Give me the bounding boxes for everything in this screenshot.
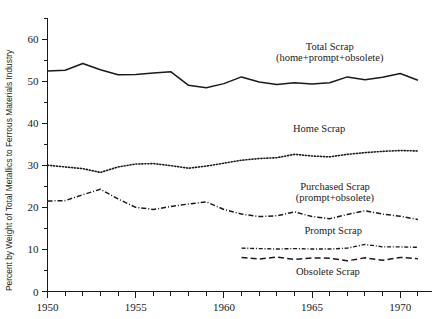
scrap-percentage-line-chart: 010203040506019501955196019651970Percent…	[0, 0, 441, 319]
series-annotation-home-scrap: Home Scrap	[293, 123, 345, 134]
series-line-home-scrap	[48, 151, 418, 173]
series-annotation-prompt-scrap: Prompt Scrap	[305, 225, 362, 236]
y-axis-title: Percent by Weight of Total Metallics to …	[4, 49, 14, 291]
y-tick-label: 20	[28, 201, 40, 213]
series-annotation-obsolete-scrap: Obsolete Scrap	[296, 266, 360, 277]
x-tick-label: 1970	[389, 301, 412, 313]
y-tick-label: 60	[28, 33, 40, 45]
series-annotation-purchased-scrap: Purchased Scrap	[300, 181, 370, 192]
x-tick-label: 1950	[37, 301, 60, 313]
x-tick-label: 1955	[125, 301, 148, 313]
series-line-total-scrap	[48, 63, 418, 87]
series-annotation-home-prompt-obsolete: (home+prompt+obsolete)	[276, 52, 384, 64]
x-tick-label: 1960	[213, 301, 236, 313]
y-tick-label: 0	[33, 286, 39, 298]
chart-container: 010203040506019501955196019651970Percent…	[0, 0, 441, 319]
series-annotation-total-scrap: Total Scrap	[306, 41, 354, 52]
y-tick-label: 40	[28, 117, 40, 129]
x-tick-label: 1965	[301, 301, 324, 313]
y-tick-label: 30	[28, 159, 40, 171]
y-tick-label: 10	[28, 243, 40, 255]
series-annotation-prompt-obsolete: (prompt+obsolete)	[296, 192, 375, 204]
series-line-obsolete-scrap	[242, 257, 418, 261]
series-line-prompt-scrap	[242, 244, 418, 249]
y-tick-label: 50	[28, 75, 40, 87]
